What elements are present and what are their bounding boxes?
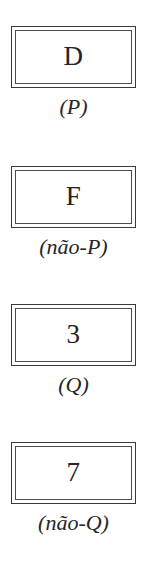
card-label: (P) [0, 95, 147, 119]
card-label: (Q) [0, 373, 147, 397]
card-inner-border: 3 [15, 308, 132, 362]
card-inner-border: F [15, 170, 132, 224]
card-face-value: D [64, 43, 84, 70]
card-group: 3 (Q) [0, 304, 147, 397]
card-inner-border: 7 [15, 446, 132, 500]
card-outer-border[interactable]: D [11, 26, 136, 88]
card-face-value: F [66, 183, 82, 210]
card-label: (não-P) [0, 235, 147, 259]
card-label: (não-Q) [0, 511, 147, 535]
card-outer-border[interactable]: 3 [11, 304, 136, 366]
card-group: F (não-P) [0, 166, 147, 259]
card-face-value: 7 [67, 459, 81, 486]
card-group: 7 (não-Q) [0, 442, 147, 535]
card-outer-border[interactable]: F [11, 166, 136, 228]
card-outer-border[interactable]: 7 [11, 442, 136, 504]
card-face-value: 3 [67, 321, 81, 348]
card-stack: D (P) F (não-P) 3 (Q) 7 (não-Q) [0, 0, 147, 576]
card-inner-border: D [15, 30, 132, 84]
card-group: D (P) [0, 26, 147, 119]
